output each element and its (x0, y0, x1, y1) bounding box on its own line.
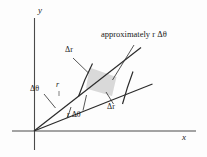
delta-theta-leader (44, 94, 56, 108)
delta-r-upper-label: Δr (65, 46, 73, 54)
x-axis-label: x (182, 133, 186, 142)
callout-leader (113, 45, 135, 80)
lower-ray (34, 84, 153, 131)
delta-theta-label: Δθ (30, 85, 39, 93)
outer-arc (123, 72, 134, 105)
shaded-area-element (86, 68, 117, 97)
delta-r-lower-label: Δr (107, 103, 115, 111)
figure-canvas (0, 0, 207, 157)
y-axis-label: y (38, 6, 42, 15)
arc-length-leader (83, 95, 87, 111)
delta-r-upper-leader (73, 58, 89, 73)
arc-length-label: r Δθ (67, 111, 81, 119)
callout-label: approximately r Δθ (101, 30, 167, 39)
radius-label: r (56, 81, 59, 89)
polar-area-element-figure: y x Δθ r r Δθ Δr Δr approximately r Δθ (0, 0, 207, 157)
